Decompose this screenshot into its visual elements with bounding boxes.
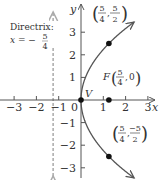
x-tick-label: 3 (144, 101, 151, 114)
x-numerator: 5 (119, 124, 124, 133)
paren-left: ( (112, 123, 119, 144)
x-tick-label: 1 (100, 101, 107, 114)
upper-point-label: ( 5 4 , 5 2 ) (92, 3, 128, 24)
upper-point (106, 41, 112, 47)
paren-left: ( (111, 69, 117, 88)
paren-right: ) (121, 3, 128, 24)
x-numerator: 5 (99, 4, 104, 13)
separator: , (125, 72, 128, 82)
y-denominator: 2 (132, 135, 137, 144)
y-tick-label: 2 (69, 49, 76, 62)
lower-point-label: ( 5 4 , −5 2 ) (112, 123, 148, 144)
lower-point (106, 154, 112, 160)
x-tick-label: −1 (51, 101, 67, 114)
x-tick-label: 2 (122, 101, 129, 114)
directrix-numerator: 5 (42, 32, 47, 41)
y-tick-label: −2 (60, 139, 76, 152)
origin-label: 0 (71, 101, 78, 114)
paren-right: ) (141, 123, 148, 144)
x-tick-label: −3 (6, 101, 22, 114)
y-numerator: −5 (129, 124, 141, 133)
directrix-denominator: 4 (42, 42, 47, 51)
y-tick-label: 1 (69, 71, 76, 84)
separator: , (107, 8, 110, 18)
directrix-title: Directrix: (10, 22, 54, 32)
paren-right: ) (135, 69, 141, 88)
x-tick-label: −2 (28, 101, 44, 114)
x-denominator: 4 (99, 15, 104, 24)
y-tick-label: −1 (60, 117, 76, 130)
y-numerator: 5 (112, 4, 117, 13)
directrix-label: Directrix: x = − 5 4 (4, 22, 54, 51)
parabola-figure: −3−2−1123 −3−2−1123 x y 0 V F ( 5 4 , 0 … (0, 0, 161, 180)
y-denominator: 2 (112, 15, 117, 24)
focus-x-denominator: 4 (117, 78, 122, 87)
focus-point (106, 97, 112, 103)
directrix-equation: x = − (10, 35, 36, 45)
paren-left: ( (92, 3, 99, 24)
x-axis-label: x (152, 101, 159, 114)
y-tick-label: 3 (69, 26, 76, 39)
focus-x-numerator: 5 (117, 68, 122, 77)
y-tick-label: −3 (60, 162, 76, 175)
focus-label: F ( 5 4 , 0 ) (102, 68, 141, 88)
focus-letter: F (102, 71, 111, 82)
y-axis-label: y (69, 3, 77, 16)
vertex-point (78, 97, 84, 103)
vertex-label: V (85, 88, 94, 99)
x-denominator: 4 (119, 135, 124, 144)
